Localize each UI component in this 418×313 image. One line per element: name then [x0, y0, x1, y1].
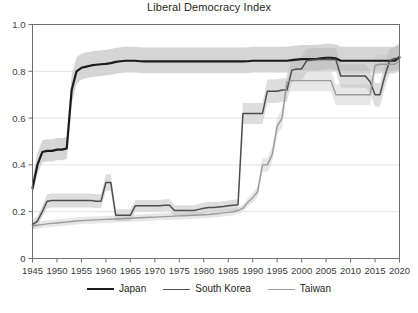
svg-text:1950: 1950: [46, 265, 67, 276]
svg-text:0.4: 0.4: [12, 159, 25, 170]
svg-text:1995: 1995: [267, 265, 288, 276]
legend-item-label: Japan: [119, 284, 146, 294]
legend-line-swatch: [87, 288, 114, 290]
legend-item-label: South Korea: [195, 284, 251, 294]
legend-item-taiwan[interactable]: Taiwan: [268, 284, 331, 294]
svg-text:1975: 1975: [169, 265, 190, 276]
svg-text:0.8: 0.8: [12, 66, 25, 77]
svg-text:1945: 1945: [22, 265, 43, 276]
svg-text:1.0: 1.0: [12, 19, 25, 30]
legend-line-swatch: [268, 289, 295, 290]
svg-text:2005: 2005: [316, 265, 337, 276]
svg-text:0.6: 0.6: [12, 113, 25, 124]
svg-text:1965: 1965: [120, 265, 141, 276]
svg-text:0.2: 0.2: [12, 206, 25, 217]
legend-item-japan[interactable]: Japan: [87, 284, 146, 294]
svg-text:1990: 1990: [242, 265, 263, 276]
svg-text:2010: 2010: [340, 265, 361, 276]
legend-line-swatch: [163, 289, 190, 290]
y-axis-tick-labels: 00.20.40.60.81.0: [12, 19, 25, 264]
legend-item-label: Taiwan: [300, 284, 331, 294]
svg-text:0: 0: [20, 253, 25, 264]
svg-text:2015: 2015: [364, 265, 385, 276]
svg-text:1970: 1970: [144, 265, 165, 276]
legend-item-south-korea[interactable]: South Korea: [163, 284, 251, 294]
chart-legend: JapanSouth KoreaTaiwan: [0, 284, 418, 294]
svg-text:1955: 1955: [71, 265, 92, 276]
chart-plot-area: 00.20.40.60.81.0 19451950195519601965197…: [0, 0, 418, 313]
svg-text:2020: 2020: [389, 265, 410, 276]
x-axis-tick-labels: 1945195019551960196519701975198019851990…: [22, 265, 410, 276]
svg-text:1960: 1960: [95, 265, 116, 276]
svg-text:1980: 1980: [193, 265, 214, 276]
svg-text:1985: 1985: [218, 265, 239, 276]
svg-text:2000: 2000: [291, 265, 312, 276]
figure: Liberal Democracy Index 00.20.40.60.81.0…: [0, 0, 418, 313]
